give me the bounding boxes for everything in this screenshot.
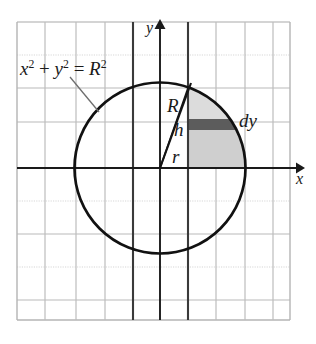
label-axis-x: x xyxy=(296,171,303,187)
label-radius-r: r xyxy=(172,147,179,166)
diagram-svg xyxy=(0,0,316,344)
eq-equals: = xyxy=(69,58,89,79)
eq-R: R xyxy=(89,58,101,79)
eq-R-exponent: 2 xyxy=(101,58,107,71)
canvas-background xyxy=(0,0,316,344)
label-height-h: h xyxy=(174,120,184,139)
eq-plus: + xyxy=(34,58,54,79)
label-axis-y: y xyxy=(146,20,153,36)
figure-container: x2 + y2 = R2 R h r dy x y xyxy=(0,0,316,344)
label-differential-dy: dy xyxy=(239,111,257,130)
label-radius-R: R xyxy=(167,96,179,115)
equation-label: x2 + y2 = R2 xyxy=(20,59,107,78)
eq-y: y xyxy=(55,58,63,79)
